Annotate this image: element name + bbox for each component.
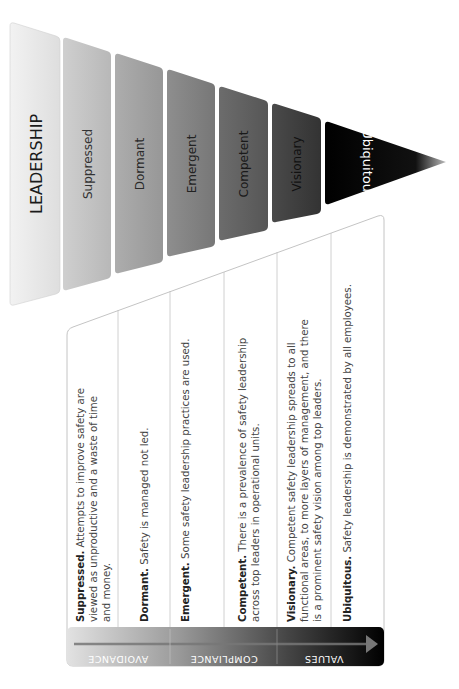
- desc-ubiquitous: Ubiquitous. Safety leadership is demonst…: [342, 284, 353, 622]
- desc-suppressed: Suppressed. Attempts to improve safety a…: [75, 388, 86, 622]
- level-label-competent: Competent: [237, 130, 251, 197]
- funnel-title: LEADERSHIP: [27, 114, 46, 214]
- desc-visionary: Visionary. Competent safety leadership s…: [286, 342, 297, 622]
- level-label-visionary: Visionary: [290, 136, 304, 191]
- desc-emergent: Emergent. Some safety leadership practic…: [180, 339, 191, 623]
- desc-suppressed-line3: and money.: [101, 563, 112, 622]
- stage-label-compliance: COMPLIANCE: [190, 654, 257, 665]
- level-label-dormant: Dormant: [133, 137, 147, 190]
- desc-dormant: Dormant. Safety is managed not led.: [139, 428, 150, 622]
- table-border: [67, 216, 384, 667]
- desc-visionary-line2: functional areas, to more layers of mana…: [299, 319, 310, 622]
- stage-bar: AVOIDANCE COMPLIANCE VALUES: [67, 627, 384, 666]
- desc-competent: Competent. There is a prevalence of safe…: [237, 338, 248, 622]
- stage-label-avoidance: AVOIDANCE: [88, 654, 148, 665]
- desc-competent-line2: across top leaders in operational units.: [250, 423, 261, 622]
- bar-ubiquitous: [325, 122, 446, 204]
- description-table: Suppressed. Attempts to improve safety a…: [67, 216, 384, 667]
- level-label-suppressed: Suppressed: [81, 129, 95, 199]
- stage-label-values: VALUES: [304, 654, 343, 665]
- safety-leadership-diagram: LEADERSHIP Suppressed Dormant Emergent C…: [0, 0, 459, 689]
- level-label-emergent: Emergent: [185, 134, 199, 193]
- desc-suppressed-line2: viewed as unproductive and a waste of ti…: [88, 396, 99, 622]
- level-label-ubiquitous: Ubiquitous: [360, 129, 375, 199]
- desc-visionary-line3: is a prominent safety vision among top l…: [312, 378, 323, 622]
